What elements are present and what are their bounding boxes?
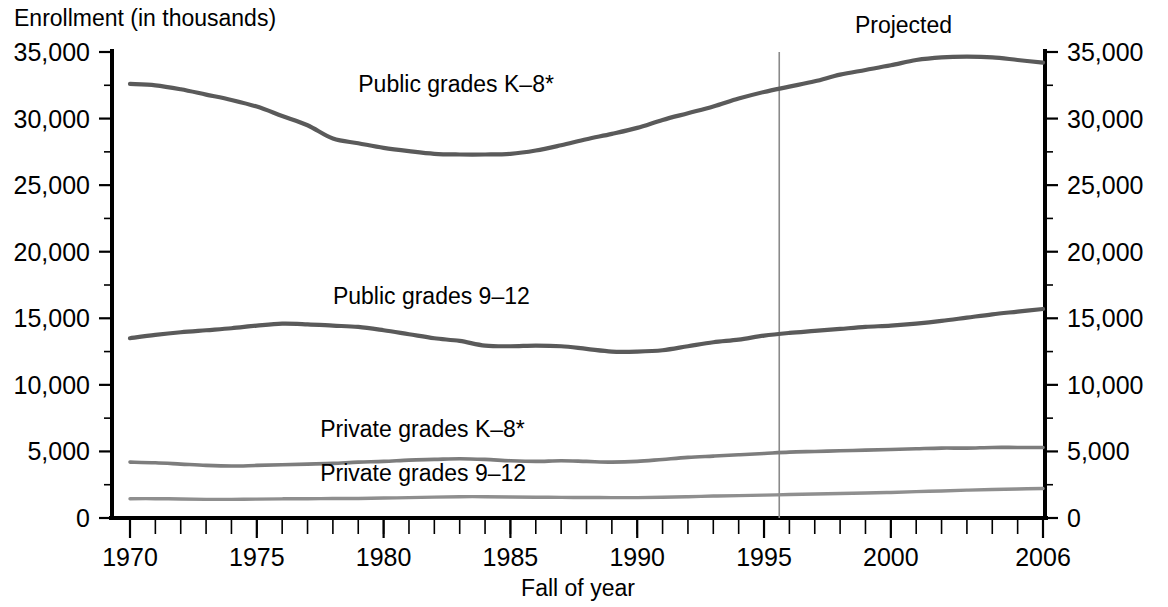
chart-annotations: Projected bbox=[855, 12, 952, 38]
y-axis-left-tick-label: 20,000 bbox=[14, 238, 90, 266]
y-axis-right-tick-label: 25,000 bbox=[1067, 171, 1143, 199]
y-axis-right-tick-label: 15,000 bbox=[1067, 304, 1143, 332]
series-label-2: Private grades K–8* bbox=[320, 416, 525, 442]
series-line-1 bbox=[130, 309, 1043, 352]
series-inline-labels: Public grades K–8*Public grades 9–12Priv… bbox=[320, 71, 554, 486]
y-axis-left-tick-label: 35,000 bbox=[14, 38, 90, 66]
y-axis-right-tick-label: 5,000 bbox=[1067, 437, 1130, 465]
page-title: Enrollment (in thousands) bbox=[14, 5, 276, 31]
y-axis-left-ticks: 05,00010,00015,00020,00025,00030,00035,0… bbox=[14, 38, 110, 532]
x-axis-tick-label: 1985 bbox=[483, 543, 539, 571]
y-axis-right-tick-label: 35,000 bbox=[1067, 38, 1143, 66]
series-label-0: Public grades K–8* bbox=[358, 71, 554, 97]
y-axis-right-tick-label: 0 bbox=[1067, 504, 1081, 532]
series-line-2 bbox=[130, 447, 1043, 466]
chart-canvas: Enrollment (in thousands) 05,00010,00015… bbox=[0, 0, 1168, 607]
x-axis-ticks: 19701975198019851990199520002006 bbox=[102, 520, 1071, 571]
x-axis-tick-label: 1995 bbox=[736, 543, 792, 571]
series-lines bbox=[130, 57, 1043, 500]
projected-label: Projected bbox=[855, 12, 952, 38]
x-axis-title: Fall of year bbox=[521, 575, 635, 601]
y-axis-right-ticks: 05,00010,00015,00020,00025,00030,00035,0… bbox=[1047, 38, 1143, 532]
y-axis-left-tick-label: 5,000 bbox=[27, 437, 90, 465]
y-axis-right-tick-label: 30,000 bbox=[1067, 105, 1143, 133]
y-axis-right-tick-label: 20,000 bbox=[1067, 238, 1143, 266]
x-axis-tick-label: 1980 bbox=[356, 543, 412, 571]
enrollment-line-chart: Enrollment (in thousands) 05,00010,00015… bbox=[0, 0, 1168, 607]
series-label-3: Private grades 9–12 bbox=[320, 460, 526, 486]
series-label-1: Public grades 9–12 bbox=[333, 283, 530, 309]
y-axis-left-tick-label: 15,000 bbox=[14, 304, 90, 332]
x-axis-tick-label: 2006 bbox=[1015, 543, 1071, 571]
series-line-3 bbox=[130, 488, 1043, 499]
series-line-0 bbox=[130, 57, 1043, 155]
y-axis-right-tick-label: 10,000 bbox=[1067, 371, 1143, 399]
x-axis-tick-label: 2000 bbox=[863, 543, 919, 571]
y-axis-left-tick-label: 25,000 bbox=[14, 171, 90, 199]
x-axis-tick-label: 1970 bbox=[102, 543, 158, 571]
y-axis-left-tick-label: 30,000 bbox=[14, 105, 90, 133]
y-axis-left-tick-label: 10,000 bbox=[14, 371, 90, 399]
y-axis-left-tick-label: 0 bbox=[76, 504, 90, 532]
x-axis-tick-label: 1990 bbox=[609, 543, 665, 571]
x-axis-tick-label: 1975 bbox=[229, 543, 285, 571]
